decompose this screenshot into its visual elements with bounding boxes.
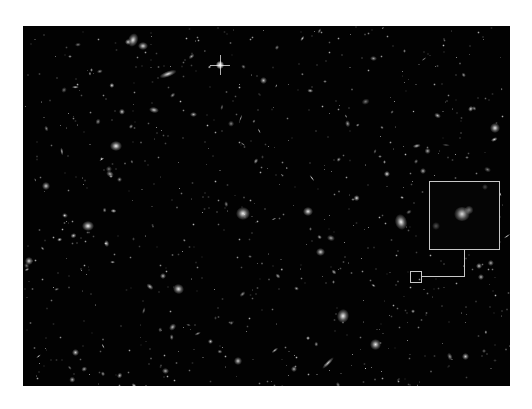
galaxy <box>293 205 294 206</box>
galaxy <box>163 354 166 357</box>
galaxy <box>415 383 418 386</box>
galaxy <box>455 99 457 101</box>
galaxy <box>273 384 275 386</box>
galaxy <box>501 315 502 316</box>
galaxy <box>481 355 483 357</box>
galaxy <box>278 288 280 290</box>
galaxy <box>84 240 87 243</box>
galaxy <box>239 63 246 70</box>
galaxy <box>243 196 245 198</box>
galaxy <box>332 280 335 283</box>
galaxy <box>395 254 398 257</box>
galaxy <box>217 27 219 29</box>
galaxy <box>395 284 397 286</box>
galaxy <box>145 282 154 291</box>
galaxy <box>336 157 342 163</box>
galaxy <box>328 228 330 230</box>
galaxy <box>500 88 502 91</box>
galaxy <box>119 108 126 115</box>
inset-faint-object <box>432 222 440 230</box>
galaxy <box>336 308 350 324</box>
galaxy <box>159 327 163 332</box>
galaxy <box>117 235 120 238</box>
galaxy <box>83 320 85 322</box>
galaxy <box>350 272 352 274</box>
galaxy <box>103 169 105 171</box>
galaxy <box>252 289 253 290</box>
galaxy <box>281 161 284 164</box>
galaxy <box>367 32 370 35</box>
galaxy <box>251 232 253 234</box>
galaxy <box>163 376 165 378</box>
galaxy <box>456 57 457 58</box>
galaxy <box>438 153 439 154</box>
galaxy <box>368 227 369 228</box>
galaxy <box>257 263 258 264</box>
galaxy <box>162 367 170 373</box>
galaxy <box>494 294 497 297</box>
galaxy <box>348 107 350 109</box>
galaxy <box>141 189 142 190</box>
galaxy <box>282 213 284 215</box>
galaxy <box>376 329 378 331</box>
galaxy <box>465 306 467 308</box>
galaxy <box>231 54 233 56</box>
galaxy <box>443 287 444 288</box>
galaxy <box>169 310 172 313</box>
galaxy <box>475 300 478 303</box>
galaxy <box>379 125 384 130</box>
galaxy <box>256 128 261 135</box>
galaxy <box>397 250 399 252</box>
galaxy <box>204 50 206 52</box>
galaxy <box>41 101 42 102</box>
galaxy <box>439 150 440 151</box>
galaxy <box>321 105 324 108</box>
galaxy <box>363 300 364 301</box>
galaxy <box>342 154 345 157</box>
galaxy <box>163 65 165 67</box>
galaxy <box>135 66 137 68</box>
galaxy <box>328 51 331 54</box>
galaxy <box>72 86 79 89</box>
galaxy <box>483 166 491 174</box>
galaxy <box>406 312 408 314</box>
galaxy <box>99 350 102 353</box>
galaxy <box>140 337 142 339</box>
galaxy <box>482 36 484 38</box>
galaxy <box>493 312 495 314</box>
galaxy <box>351 88 353 90</box>
galaxy <box>477 97 479 99</box>
galaxy <box>154 138 155 139</box>
galaxy <box>208 148 209 149</box>
galaxy <box>83 264 86 267</box>
galaxy <box>278 217 281 220</box>
galaxy <box>316 64 318 66</box>
galaxy <box>203 208 205 210</box>
galaxy <box>455 154 456 155</box>
galaxy <box>407 322 408 323</box>
galaxy <box>82 345 84 347</box>
galaxy <box>386 186 388 188</box>
galaxy <box>114 42 117 45</box>
galaxy <box>334 330 336 332</box>
galaxy <box>407 383 410 386</box>
galaxy <box>461 312 463 314</box>
galaxy <box>182 61 184 63</box>
galaxy <box>130 382 137 386</box>
galaxy <box>324 219 326 221</box>
galaxy <box>149 106 160 114</box>
galaxy <box>455 74 457 76</box>
galaxy <box>194 324 196 326</box>
galaxy <box>382 333 384 335</box>
galaxy <box>370 56 378 62</box>
galaxy <box>451 30 452 31</box>
galaxy <box>426 292 429 295</box>
galaxy <box>80 237 82 239</box>
galaxy <box>441 305 443 307</box>
galaxy <box>261 309 263 311</box>
galaxy <box>221 298 224 301</box>
galaxy <box>370 339 381 350</box>
galaxy <box>179 100 182 103</box>
galaxy <box>415 84 417 86</box>
galaxy <box>81 365 88 372</box>
